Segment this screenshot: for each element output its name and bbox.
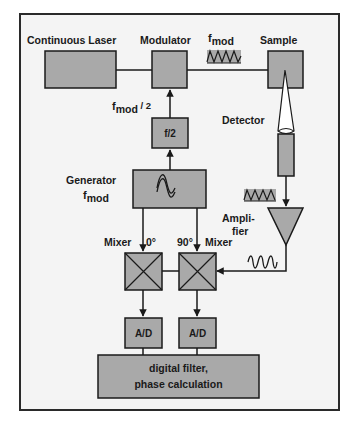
ad-right-label: A/D (189, 328, 206, 339)
modulator-label: Modulator (140, 34, 191, 46)
continuous-laser-label: Continuous Laser (27, 34, 116, 46)
sample-label: Sample (260, 34, 298, 46)
square-wave-signal-icon (207, 50, 241, 63)
digital-filter-label-line2: phase calculation (134, 378, 222, 390)
divider-label: f/2 (164, 128, 176, 139)
digital-filter-label-line1: digital filter, (149, 362, 208, 374)
mixer-90-node (179, 253, 216, 290)
detector-signal-icon (244, 189, 276, 201)
generator-label: Generator (66, 174, 116, 186)
divider-node: f/2 (152, 118, 188, 148)
diagram-canvas: Continuous Laser Modulator fmod Sample D… (0, 0, 354, 419)
digital-filter-node: digital filter, phase calculation (98, 355, 259, 398)
mixer-left-label: Mixer (104, 236, 131, 248)
mixer-0-node (125, 253, 162, 290)
ad-left-node: A/D (125, 318, 162, 348)
generator-fmod-label: fmod (83, 189, 109, 204)
amplifier-label-line2: fier (232, 225, 248, 237)
phase-90-label: 90° (177, 236, 193, 248)
ad-left-label: A/D (135, 328, 152, 339)
fmod-beam-label: fmod (208, 32, 234, 47)
modulator-box (152, 51, 187, 88)
phase-0-label: 0° (146, 236, 156, 248)
continuous-laser-box (45, 51, 116, 88)
ad-right-node: A/D (179, 318, 216, 348)
generator-box (133, 170, 206, 208)
amplifier-label-line1: Ampli- (222, 212, 255, 224)
detector-label: Detector (222, 114, 265, 126)
detector-box (278, 134, 294, 176)
mixer-right-label: Mixer (205, 236, 232, 248)
lens-icon (278, 129, 294, 134)
